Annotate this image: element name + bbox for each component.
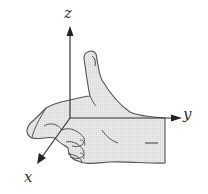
hand-axes-illustration [0, 0, 208, 194]
x-axis-label: x [24, 170, 32, 185]
y-arrowhead-icon [171, 115, 182, 122]
hand-icon [27, 51, 165, 163]
right-hand-rule-diagram: z y x [0, 0, 208, 194]
y-axis-label: y [183, 107, 191, 122]
x-arrowhead-icon [37, 153, 46, 164]
z-axis-label: z [64, 6, 72, 21]
z-arrowhead-icon [67, 26, 74, 36]
